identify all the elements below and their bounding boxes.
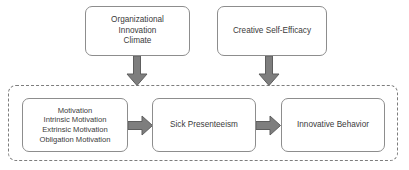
node-label-line: Motivation (23, 106, 127, 116)
node-label-group: Organizational Innovation Climate (86, 15, 189, 47)
node-label-line: Extrinsic Motivation (23, 125, 127, 135)
arrow-down-icon (258, 56, 280, 86)
node-motivation[interactable]: Motivation Intrinsic Motivation Extrinsi… (22, 98, 128, 152)
node-label-group: Creative Self-Efficacy (218, 26, 326, 37)
node-label-line: Sick Presenteeism (153, 120, 255, 131)
node-label-line: Creative Self-Efficacy (218, 26, 326, 37)
node-sick-presenteeism[interactable]: Sick Presenteeism (152, 98, 256, 152)
arrow-right-icon (128, 115, 153, 136)
node-label-group: Motivation Intrinsic Motivation Extrinsi… (23, 106, 127, 145)
node-label-line: Climate (86, 36, 189, 47)
node-label-line: Obligation Motivation (23, 135, 127, 145)
node-organizational-innovation-climate[interactable]: Organizational Innovation Climate (85, 6, 190, 56)
node-label-line: Innovative Behavior (282, 120, 384, 131)
node-innovative-behavior[interactable]: Innovative Behavior (281, 98, 385, 152)
arrow-right-icon (256, 115, 281, 136)
arrow-down-icon (126, 56, 148, 86)
node-label-line: Organizational (86, 15, 189, 26)
node-label-group: Innovative Behavior (282, 120, 384, 131)
node-label-line: Intrinsic Motivation (23, 115, 127, 125)
node-label-line: Innovation (86, 26, 189, 37)
node-label-group: Sick Presenteeism (153, 120, 255, 131)
diagram-canvas: Organizational Innovation Climate Creati… (0, 0, 409, 170)
node-creative-self-efficacy[interactable]: Creative Self-Efficacy (217, 6, 327, 56)
